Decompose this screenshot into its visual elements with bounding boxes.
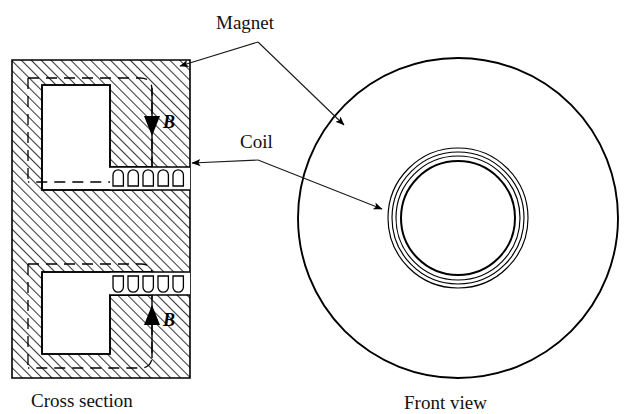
upper-coil-windings <box>110 167 190 190</box>
coil-circle-1 <box>388 148 528 288</box>
coil-circle-3 <box>396 156 520 280</box>
magnet-label: Magnet <box>216 12 275 33</box>
front-view <box>298 58 618 378</box>
technical-diagram: B B <box>0 0 636 414</box>
cross-section-caption: Cross section <box>31 390 133 411</box>
figure-container: B B <box>0 0 636 414</box>
coil-leader-group <box>192 160 382 209</box>
magnet-leader-group <box>180 42 344 125</box>
bore-circle <box>401 161 515 275</box>
lower-coil-windings <box>110 272 190 295</box>
upper-field-label: B <box>162 112 175 132</box>
coil-leader-to-cross-section <box>192 160 258 163</box>
front-view-outer-circle <box>298 58 618 378</box>
magnet-leader-to-cross-section <box>180 42 258 66</box>
magnet-body-hatched <box>12 60 190 378</box>
front-view-caption: Front view <box>404 392 487 413</box>
coil-leader-to-front-view <box>258 160 382 209</box>
magnet-leader-to-front-view <box>258 42 344 125</box>
cross-section-view: B B <box>12 60 190 378</box>
coil-label: Coil <box>240 131 273 152</box>
coil-circle-2 <box>392 152 524 284</box>
lower-field-label: B <box>162 310 175 330</box>
